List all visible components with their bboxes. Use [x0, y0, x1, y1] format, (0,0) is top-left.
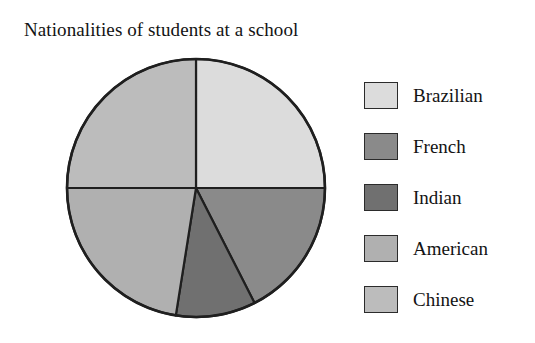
- legend-label-french: French: [413, 136, 466, 158]
- pie-slice-brazilian[interactable]: [196, 59, 325, 188]
- pie-chart-figure: Nationalities of students at a school Br…: [0, 0, 535, 343]
- legend-item-french[interactable]: French: [364, 129, 532, 164]
- legend-label-chinese: Chinese: [413, 289, 474, 311]
- pie-slice-chinese[interactable]: [67, 59, 196, 188]
- chart-title: Nationalities of students at a school: [24, 18, 298, 42]
- legend-swatch-brazilian: [364, 82, 398, 109]
- chart-legend: BrazilianFrenchIndianAmericanChinese: [364, 78, 532, 317]
- legend-label-indian: Indian: [413, 187, 462, 209]
- legend-item-american[interactable]: American: [364, 231, 532, 266]
- legend-item-chinese[interactable]: Chinese: [364, 282, 532, 317]
- legend-item-brazilian[interactable]: Brazilian: [364, 78, 532, 113]
- legend-item-indian[interactable]: Indian: [364, 180, 532, 215]
- legend-swatch-chinese: [364, 286, 398, 313]
- legend-label-american: American: [413, 238, 488, 260]
- legend-swatch-french: [364, 133, 398, 160]
- pie-chart-svg: [60, 53, 332, 325]
- legend-swatch-american: [364, 235, 398, 262]
- pie-slice-american[interactable]: [67, 188, 196, 315]
- legend-swatch-indian: [364, 184, 398, 211]
- pie-chart-plot-area: [60, 53, 332, 325]
- legend-label-brazilian: Brazilian: [413, 85, 483, 107]
